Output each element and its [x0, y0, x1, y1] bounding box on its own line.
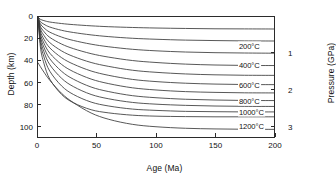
y-axis-left-tick-label: 100	[11, 122, 33, 131]
x-axis-tick-label: 150	[209, 141, 222, 150]
isotherm-label: 800°C	[238, 97, 261, 106]
isotherm-label: 200°C	[238, 41, 261, 50]
y-axis-right-title: Pressure (GPa)	[326, 23, 336, 123]
y-axis-left-tick	[37, 38, 41, 39]
isotherm-curve	[38, 17, 274, 29]
y-axis-left-tick	[37, 126, 41, 127]
x-axis-tick	[37, 133, 38, 137]
y-axis-right-tick	[271, 126, 275, 127]
y-axis-right-tick-label: 2	[288, 85, 292, 94]
isotherm-label: 600°C	[238, 80, 261, 89]
x-axis-tick-label: 50	[92, 141, 101, 150]
x-axis-tick	[275, 133, 276, 137]
x-axis-tick-label: 100	[149, 141, 162, 150]
y-axis-right-tick-label: 3	[288, 122, 292, 131]
plot-area	[37, 16, 275, 138]
y-axis-left-tick	[37, 16, 41, 17]
isotherm-curves	[38, 17, 274, 137]
x-axis-tick-label: 200	[268, 141, 281, 150]
x-axis-tick	[96, 133, 97, 137]
x-axis-tick	[156, 133, 157, 137]
x-axis-title: Age (Ma)	[0, 163, 329, 173]
y-axis-left-tick	[37, 60, 41, 61]
y-axis-right-tick-label: 1	[288, 48, 292, 57]
y-axis-left-tick	[37, 82, 41, 83]
isotherm-label: 1000°C	[238, 108, 265, 117]
x-axis-tick-label: 0	[35, 141, 39, 150]
x-axis-tick	[215, 133, 216, 137]
isotherm-label: 1200°C	[238, 121, 265, 130]
y-axis-left-tick-label: 0	[11, 12, 33, 21]
y-axis-right-tick	[271, 52, 275, 53]
isotherm-label: 400°C	[238, 60, 261, 69]
y-axis-right-tick	[271, 89, 275, 90]
y-axis-left-title: Depth (km)	[6, 29, 16, 119]
y-axis-left-tick	[37, 104, 41, 105]
